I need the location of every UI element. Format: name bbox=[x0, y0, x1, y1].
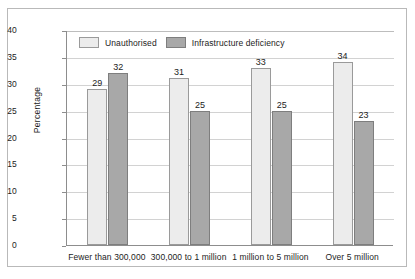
y-axis-tick-label: 30 bbox=[0, 79, 17, 89]
bar-1-1[interactable] bbox=[190, 111, 210, 245]
x-axis-category-label: Over 5 million bbox=[292, 252, 412, 262]
bar-0-2[interactable] bbox=[251, 68, 271, 245]
bar-0-3[interactable] bbox=[333, 62, 353, 245]
y-axis-tick-label: 0 bbox=[0, 240, 17, 250]
y-axis-tick-label: 40 bbox=[0, 25, 17, 35]
bar-value-label: 31 bbox=[159, 67, 199, 77]
bar-value-label: 32 bbox=[98, 62, 138, 72]
y-axis-tick-label: 10 bbox=[0, 186, 17, 196]
bar-value-label: 25 bbox=[262, 100, 302, 110]
y-axis-tick-label: 35 bbox=[0, 52, 17, 62]
bar-value-label: 25 bbox=[180, 100, 220, 110]
legend-swatch-infrastructure-deficiency bbox=[166, 37, 186, 48]
gridline bbox=[67, 31, 394, 32]
y-axis-tick-label: 15 bbox=[0, 159, 17, 169]
bar-value-label: 33 bbox=[241, 57, 281, 67]
plot-area: 2932312533253423 Unauthorised Infrastruc… bbox=[66, 31, 393, 246]
y-axis-tick-label: 20 bbox=[0, 133, 17, 143]
bar-1-0[interactable] bbox=[108, 73, 128, 245]
bar-1-2[interactable] bbox=[272, 111, 292, 245]
bar-1-3[interactable] bbox=[354, 121, 374, 245]
bar-value-label: 23 bbox=[344, 110, 384, 120]
y-axis-title: Percentage bbox=[32, 75, 42, 145]
bar-0-0[interactable] bbox=[87, 89, 107, 245]
y-axis-tick-label: 25 bbox=[0, 106, 17, 116]
bar-value-label: 34 bbox=[323, 51, 363, 61]
legend-item-infrastructure-deficiency[interactable]: Infrastructure deficiency bbox=[166, 37, 285, 48]
y-axis-tick-label: 5 bbox=[0, 213, 17, 223]
legend-label-infrastructure-deficiency: Infrastructure deficiency bbox=[192, 38, 285, 48]
chart-frame: Percentage 4035302520151050 293231253325… bbox=[7, 8, 407, 267]
legend-swatch-unauthorised bbox=[79, 37, 99, 48]
chart-figure: Percentage 4035302520151050 293231253325… bbox=[0, 0, 415, 279]
y-axis-tick-mark bbox=[62, 246, 66, 247]
chart-legend: Unauthorised Infrastructure deficiency bbox=[79, 37, 285, 48]
legend-label-unauthorised: Unauthorised bbox=[105, 38, 157, 48]
legend-item-unauthorised[interactable]: Unauthorised bbox=[79, 37, 157, 48]
